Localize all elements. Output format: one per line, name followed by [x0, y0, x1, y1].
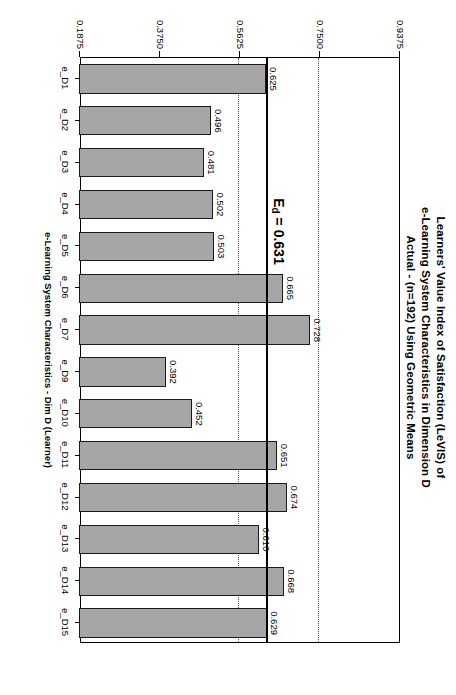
- category-tick: [75, 455, 80, 456]
- gridline: [318, 58, 319, 642]
- category-tick: [75, 78, 80, 79]
- category-label: e_D5: [60, 234, 71, 257]
- value-tick: [399, 51, 400, 57]
- bar: [79, 232, 214, 261]
- bar: [79, 525, 259, 554]
- category-tick: [75, 538, 80, 539]
- bar-value-label: 0.502: [213, 193, 226, 217]
- bar-value-label: 0.496: [211, 109, 224, 133]
- bar-value-label: 0.392: [166, 360, 179, 384]
- bar: [79, 106, 211, 135]
- bar-value-label: 0.668: [284, 569, 297, 593]
- value-label: 0.3750: [155, 9, 166, 49]
- category-tick: [75, 371, 80, 372]
- bar: [79, 567, 284, 596]
- category-tick: [75, 245, 80, 246]
- bar-value-label: 0.674: [287, 486, 300, 510]
- category-label: e_D6: [60, 276, 71, 299]
- category-tick: [75, 120, 80, 121]
- value-label: 0.9375: [395, 9, 406, 49]
- value-tick: [319, 51, 320, 57]
- value-label: 0.1875: [75, 9, 86, 49]
- category-tick: [75, 622, 80, 623]
- plot-area: 0.6250.4960.4810.5020.5030.6650.7280.392…: [80, 57, 400, 643]
- gridline: [238, 58, 239, 642]
- bar-value-label: 0.503: [214, 234, 227, 258]
- chart-title: Learners' Value Index of Satisfaction (L…: [403, 0, 448, 695]
- category-label: e_D12: [60, 483, 71, 511]
- bar: [79, 64, 266, 93]
- chart-canvas: Learners' Value Index of Satisfaction (L…: [0, 0, 456, 695]
- bar: [79, 608, 267, 637]
- bar: [79, 483, 287, 512]
- bar-value-label: 0.651: [277, 444, 290, 468]
- value-tick: [79, 51, 80, 57]
- category-label: e_D9: [60, 360, 71, 383]
- category-label: e_D2: [60, 108, 71, 131]
- category-tick: [75, 413, 80, 414]
- bar: [79, 148, 204, 177]
- value-tick: [159, 51, 160, 57]
- category-label: e_D10: [60, 399, 71, 427]
- category-tick: [75, 287, 80, 288]
- category-label: e_D15: [60, 608, 71, 636]
- reference-line-annotation: Ed = 0.631: [268, 198, 287, 264]
- x-axis-title: e-Learning System Characteristics - Dim …: [43, 57, 54, 643]
- value-tick: [239, 51, 240, 57]
- category-label: e_D3: [60, 150, 71, 173]
- bar: [79, 315, 310, 344]
- value-label: 0.5625: [235, 9, 246, 49]
- bar-value-label: 0.452: [192, 402, 205, 426]
- bar: [79, 274, 283, 303]
- category-label: e_D4: [60, 192, 71, 215]
- category-tick: [75, 204, 80, 205]
- category-tick: [75, 580, 80, 581]
- category-label: e_D11: [60, 441, 71, 468]
- category-label: e_D13: [60, 524, 71, 552]
- category-tick: [75, 497, 80, 498]
- category-tick: [75, 162, 80, 163]
- category-label: e_D7: [60, 318, 71, 341]
- bar-value-label: 0.665: [283, 276, 296, 300]
- category-label: e_D1: [60, 67, 71, 90]
- bar: [79, 441, 277, 470]
- bar-value-label: 0.629: [267, 611, 280, 635]
- category-tick: [75, 329, 80, 330]
- bar-value-label: 0.481: [204, 151, 217, 175]
- category-label: e_D14: [60, 566, 71, 594]
- bar: [79, 399, 192, 428]
- bar: [79, 190, 213, 219]
- reference-line: [266, 58, 268, 642]
- bar-value-label: 0.728: [310, 318, 323, 342]
- value-label: 0.7500: [315, 9, 326, 49]
- bar: [79, 357, 166, 386]
